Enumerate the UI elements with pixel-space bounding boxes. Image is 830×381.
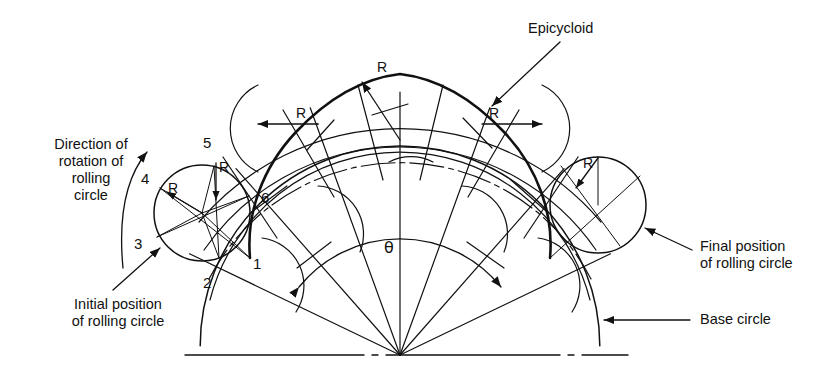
epicycloid-diagram: Direction of rotation of rolling circle … [0,0,830,381]
division-point-2: 2 [203,274,211,291]
final-rolling-circle [550,157,646,258]
division-point-5: 5 [203,134,211,151]
radial-division-lines [190,92,611,355]
label-theta-angle: θ [384,238,394,257]
label-initial-position: Initial position of rolling circle [28,296,208,330]
division-point-6: 6 [261,189,269,206]
label-epicycloid: Epicycloid [528,20,593,37]
r-label-initial-circle: R [168,180,178,196]
label-final-position: Final position of rolling circle [700,238,828,272]
r-label-point5: R [219,159,229,175]
leader-final-position [645,228,692,250]
r-label-left-dimension: R [296,105,306,121]
division-point-3: 3 [134,235,142,252]
r-label-final-circle: R [583,155,593,171]
leader-epicycloid [492,42,560,106]
leader-initial-position [113,248,160,290]
division-point-4: 4 [141,170,149,187]
division-point-1: 1 [253,255,261,272]
label-base-circle: Base circle [700,311,771,328]
rolling-circle-station-arcs [262,157,580,312]
r-dimension-top [362,82,400,140]
r-label-right-dimension: R [489,105,499,121]
r-label-top: R [377,59,387,75]
